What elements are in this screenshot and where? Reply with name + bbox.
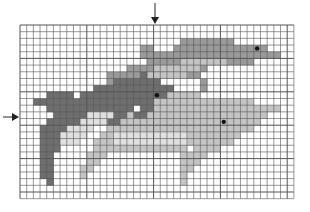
top-arrow-icon — [151, 3, 159, 24]
dolphin-grid-figure — [0, 0, 310, 212]
light-dolphin-eye — [222, 120, 226, 124]
mid-dolphin-eye — [255, 46, 259, 50]
dark-dolphin-eye — [155, 93, 159, 97]
left-arrow-icon — [3, 113, 19, 121]
